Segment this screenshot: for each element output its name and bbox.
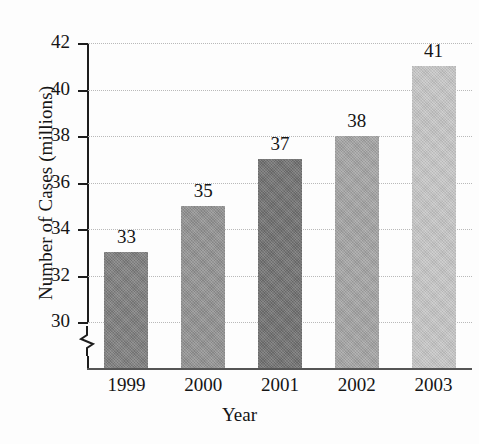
bar-value-label: 41 <box>404 40 464 62</box>
y-axis-tick-label: 34 <box>26 217 70 239</box>
y-axis-tick <box>78 43 88 45</box>
y-axis-tick <box>78 322 88 324</box>
bar-chart: Number of Cases (millions) 3032343638404… <box>0 0 479 444</box>
bar <box>412 66 456 368</box>
x-axis-title: Year <box>0 404 479 426</box>
bar <box>335 136 379 368</box>
bar-value-label: 35 <box>173 180 233 202</box>
y-axis-tick-label: 30 <box>26 310 70 332</box>
x-axis-tick-label: 2003 <box>397 374 471 396</box>
y-axis-tick-label: 42 <box>26 31 70 53</box>
bar <box>104 252 148 368</box>
x-axis-line <box>87 368 472 370</box>
y-axis-tick-label: 32 <box>26 264 70 286</box>
bar-value-label: 33 <box>96 226 156 248</box>
bar-value-label: 37 <box>250 133 310 155</box>
y-axis-tick <box>78 136 88 138</box>
y-axis-tick <box>78 183 88 185</box>
bar-value-label: 38 <box>327 110 387 132</box>
y-axis-tick <box>78 90 88 92</box>
bar <box>258 159 302 368</box>
y-axis-tick-label: 38 <box>26 124 70 146</box>
y-axis-tick-label: 40 <box>26 78 70 100</box>
x-axis-tick-label: 1999 <box>89 374 163 396</box>
x-axis-tick-label: 2001 <box>243 374 317 396</box>
x-axis-tick-label: 2000 <box>166 374 240 396</box>
bar <box>181 206 225 368</box>
y-axis-tick-label: 36 <box>26 171 70 193</box>
y-axis-tick <box>78 276 88 278</box>
y-axis-tick <box>78 229 88 231</box>
x-axis-tick-label: 2002 <box>320 374 394 396</box>
